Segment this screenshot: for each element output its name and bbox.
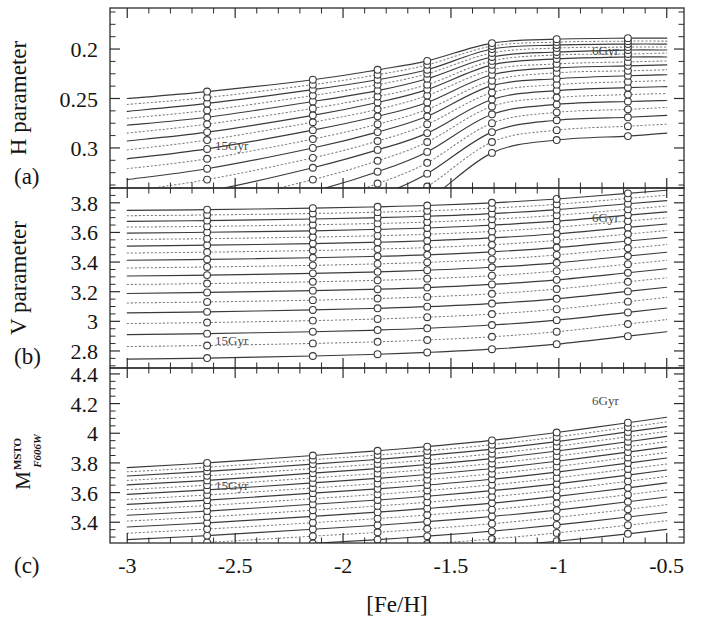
y-tick-label: 3.2	[71, 280, 99, 305]
data-point-marker	[204, 88, 211, 95]
data-point-marker	[424, 58, 431, 65]
data-point-marker	[374, 316, 381, 323]
data-point-marker	[374, 147, 381, 154]
data-point-marker	[489, 300, 496, 307]
annotation-6gyr: 6Gyr	[592, 393, 619, 408]
data-point-marker	[309, 127, 316, 134]
data-point-marker	[553, 317, 560, 324]
data-point-marker	[624, 333, 631, 340]
data-point-marker	[309, 526, 316, 533]
y-tick-label: 4	[87, 421, 98, 446]
data-point-marker	[309, 287, 316, 294]
data-point-marker	[204, 308, 211, 315]
data-point-marker	[204, 280, 211, 287]
data-point-marker	[489, 235, 496, 242]
data-point-marker	[309, 297, 316, 304]
data-point-marker	[204, 299, 211, 306]
data-point-marker	[624, 506, 631, 513]
data-point-marker	[309, 176, 316, 183]
data-point-marker	[204, 272, 211, 279]
data-point-marker	[374, 338, 381, 345]
data-point-marker	[624, 190, 631, 197]
data-point-marker	[553, 101, 560, 108]
data-point-marker	[204, 532, 211, 539]
data-point-marker	[204, 146, 211, 153]
data-point-marker	[309, 164, 316, 171]
data-point-marker	[624, 484, 631, 491]
data-point-marker	[374, 447, 381, 454]
y-tick-label: 0.3	[71, 136, 99, 161]
data-point-marker	[204, 355, 211, 362]
data-point-marker	[309, 145, 316, 152]
data-point-marker	[424, 244, 431, 251]
data-point-marker	[489, 272, 496, 279]
data-point-marker	[309, 105, 316, 112]
data-point-marker	[624, 231, 631, 238]
data-point-marker	[374, 157, 381, 164]
data-point-marker	[309, 240, 316, 247]
data-point-marker	[309, 254, 316, 261]
data-point-marker	[553, 522, 560, 529]
x-tick-label: -2	[334, 553, 352, 578]
data-point-marker	[553, 306, 560, 313]
data-point-marker	[424, 303, 431, 310]
data-point-marker	[553, 295, 560, 302]
data-point-marker	[204, 129, 211, 136]
figure-root: 0.30.250.2(a)15Gyr6Gyr2.833.23.43.63.8(b…	[0, 0, 722, 643]
y-tick-label: 3.6	[71, 481, 99, 506]
data-point-marker	[624, 261, 631, 268]
data-point-marker	[424, 149, 431, 156]
annotation-6gyr: 6Gyr	[592, 210, 619, 225]
data-point-marker	[424, 99, 431, 106]
x-tick-label: -2.5	[218, 553, 253, 578]
data-point-marker	[204, 460, 211, 467]
data-point-marker	[553, 117, 560, 124]
data-point-marker	[624, 321, 631, 328]
data-point-marker	[489, 437, 496, 444]
data-point-marker	[309, 262, 316, 269]
y-tick-label: 0.25	[60, 87, 99, 112]
data-point-marker	[374, 295, 381, 302]
data-point-marker	[624, 35, 631, 42]
x-tick-label: -3	[118, 553, 136, 578]
y-tick-label: 4.2	[71, 392, 99, 417]
data-point-marker	[424, 139, 431, 146]
y-tick-label: 3.4	[71, 250, 99, 275]
data-point-marker	[309, 340, 316, 347]
data-point-marker	[374, 138, 381, 145]
data-point-marker	[204, 165, 211, 172]
data-point-marker	[424, 267, 431, 274]
data-point-marker	[309, 533, 316, 540]
data-point-marker	[204, 176, 211, 183]
y-tick-label: 3.8	[71, 451, 99, 476]
data-point-marker	[553, 507, 560, 514]
data-point-marker	[424, 284, 431, 291]
data-point-marker	[624, 269, 631, 276]
data-point-marker	[374, 121, 381, 128]
data-point-marker	[624, 106, 631, 113]
data-point-marker	[553, 286, 560, 293]
data-point-marker	[624, 114, 631, 121]
data-point-marker	[309, 452, 316, 459]
data-point-marker	[204, 121, 211, 128]
data-point-marker	[624, 514, 631, 521]
data-point-marker	[489, 346, 496, 353]
data-point-marker	[489, 139, 496, 146]
data-point-marker	[309, 247, 316, 254]
data-point-marker	[309, 270, 316, 277]
data-point-marker	[309, 317, 316, 324]
data-point-marker	[553, 328, 560, 335]
data-point-marker	[309, 278, 316, 285]
x-tick-label: -1.5	[433, 553, 468, 578]
data-point-marker	[374, 203, 381, 210]
data-point-marker	[553, 237, 560, 244]
isochrone-figure: 0.30.250.2(a)15Gyr6Gyr2.833.23.43.63.8(b…	[0, 0, 722, 643]
annotation-15gyr: 15Gyr	[215, 333, 249, 348]
data-point-marker	[489, 322, 496, 329]
data-point-marker	[424, 512, 431, 519]
data-point-marker	[489, 281, 496, 288]
data-point-marker	[489, 248, 496, 255]
data-point-marker	[309, 328, 316, 335]
data-point-marker	[424, 275, 431, 282]
data-point-marker	[204, 319, 211, 326]
